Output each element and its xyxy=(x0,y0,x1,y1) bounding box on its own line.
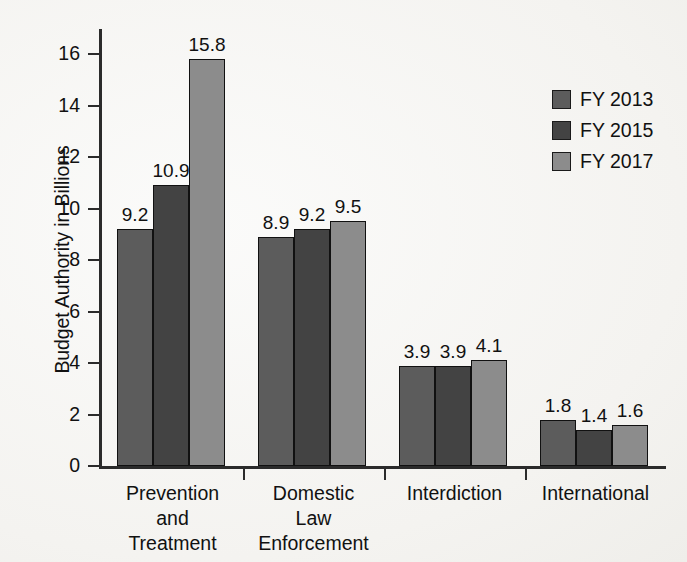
y-tick-label: 12 xyxy=(28,145,80,168)
bar-chart: Budget Authority in Billions 02468101214… xyxy=(0,0,687,562)
category-label-line: International xyxy=(516,481,676,506)
legend-item[interactable]: FY 2015 xyxy=(552,115,653,146)
bar-value-label: 1.6 xyxy=(600,400,660,422)
bar xyxy=(294,229,330,466)
category-label: DomesticLawEnforcement xyxy=(234,481,394,556)
chart-legend: FY 2013FY 2015FY 2017 xyxy=(552,84,653,177)
y-axis-line xyxy=(99,29,102,469)
y-tick-label: 16 xyxy=(28,42,80,65)
y-tick-label: 4 xyxy=(28,351,80,374)
y-tick-label: 8 xyxy=(28,248,80,271)
y-tick-label: 14 xyxy=(28,94,80,117)
bar xyxy=(576,430,612,466)
bar xyxy=(330,221,366,466)
y-tick xyxy=(88,414,99,416)
bar xyxy=(189,59,225,466)
category-label-line: Prevention xyxy=(93,481,253,506)
category-label: PreventionandTreatment xyxy=(93,481,253,556)
legend-item[interactable]: FY 2013 xyxy=(552,84,653,115)
bar-value-label: 15.8 xyxy=(177,34,237,56)
y-tick xyxy=(88,362,99,364)
legend-swatch-icon xyxy=(552,121,571,140)
bar xyxy=(117,229,153,466)
y-tick xyxy=(88,53,99,55)
bar-value-label: 9.5 xyxy=(318,196,378,218)
category-label-line: Treatment xyxy=(93,531,253,556)
y-tick xyxy=(88,259,99,261)
legend-label: FY 2013 xyxy=(580,88,653,111)
legend-item[interactable]: FY 2017 xyxy=(552,146,653,177)
category-label-line: Domestic xyxy=(234,481,394,506)
x-tick xyxy=(243,469,245,480)
y-tick-label: 6 xyxy=(28,300,80,323)
bar xyxy=(153,185,189,466)
x-tick xyxy=(384,469,386,480)
bar xyxy=(399,366,435,466)
bar xyxy=(612,425,648,466)
y-tick xyxy=(88,465,99,467)
legend-label: FY 2017 xyxy=(580,150,653,173)
bar xyxy=(435,366,471,466)
category-label-line: Enforcement xyxy=(234,531,394,556)
bar-value-label: 4.1 xyxy=(459,335,519,357)
category-label: International xyxy=(516,481,676,506)
category-label-line: Interdiction xyxy=(375,481,535,506)
legend-label: FY 2015 xyxy=(580,119,653,142)
y-tick-label: 2 xyxy=(28,403,80,426)
y-tick-label: 0 xyxy=(28,454,80,477)
bar xyxy=(258,237,294,466)
category-label-line: Law xyxy=(234,506,394,531)
y-tick xyxy=(88,208,99,210)
category-label-line: and xyxy=(93,506,253,531)
category-label: Interdiction xyxy=(375,481,535,506)
legend-swatch-icon xyxy=(552,152,571,171)
x-axis-line xyxy=(99,466,666,469)
x-tick xyxy=(525,469,527,480)
bar-value-label: 10.9 xyxy=(141,160,201,182)
y-tick xyxy=(88,105,99,107)
bar-value-label: 9.2 xyxy=(105,204,165,226)
legend-swatch-icon xyxy=(552,90,571,109)
y-tick xyxy=(88,311,99,313)
bar xyxy=(471,360,507,466)
y-tick-label: 10 xyxy=(28,197,80,220)
y-tick xyxy=(88,156,99,158)
